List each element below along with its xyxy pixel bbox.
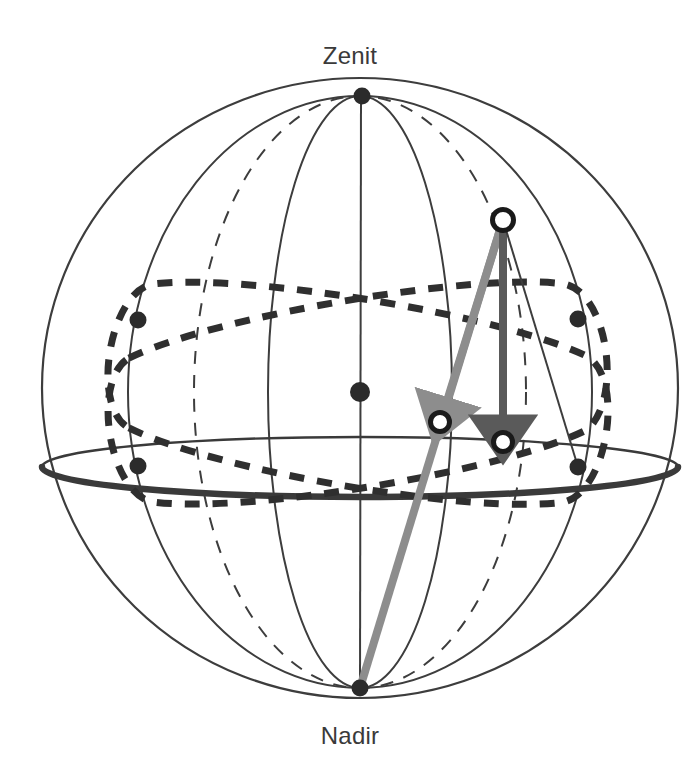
point-east-upper[interactable] [570,311,587,328]
point-west-horizon[interactable] [130,458,147,475]
point-dark-arrow-target-open[interactable] [494,433,513,452]
gray-projection-arrow[interactable] [443,220,503,414]
sphere-illustration [0,0,700,777]
zenith-label: Zenit [0,42,700,70]
point-zenith[interactable] [354,88,371,105]
point-star-open[interactable] [493,210,514,231]
point-center[interactable] [350,382,370,402]
point-east-horizon[interactable] [570,459,587,476]
point-gray-arrow-target-open[interactable] [431,413,450,432]
celestial-sphere-diagram: Zenit Nadir [0,0,700,777]
point-nadir[interactable] [352,680,369,697]
point-west-upper[interactable] [130,312,147,329]
nadir-label: Nadir [0,722,700,750]
